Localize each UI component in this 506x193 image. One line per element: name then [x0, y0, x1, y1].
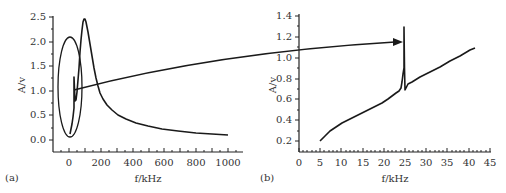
- panel-b-x-tick-label: 5: [317, 157, 323, 168]
- panel-b-x-tick-label: 10: [335, 157, 348, 168]
- panel-a-x-tick-label: 600: [154, 157, 173, 168]
- panel-b-x-tick-label: 20: [378, 157, 391, 168]
- panel-a-x-tick-label: 0: [66, 157, 72, 168]
- zoom-region-ellipse: [58, 37, 82, 137]
- panel-a-y-tick-label: 1.5: [30, 60, 46, 71]
- panel-b-x-tick-label: 45: [484, 157, 497, 168]
- panel-b: 1.4 1.2 1.0 0.8 0.6 0.4 0.2: [260, 10, 496, 184]
- panel-b-y-tick-label: 1.4: [276, 10, 292, 21]
- panel-b-x-tick-label: 40: [463, 157, 476, 168]
- panel-a-x-tick-label: 400: [123, 157, 142, 168]
- panel-a-y-axis-label: A/v: [16, 77, 27, 95]
- panel-a: 2.5 2.0 1.5 1.0 0.5 0.0: [5, 11, 243, 184]
- panel-b-x-tick-label: 0: [296, 157, 302, 168]
- panel-a-x-tick-label: 800: [186, 157, 205, 168]
- panel-b-y-tick-label: 0.6: [276, 93, 292, 104]
- panel-a-y-tick-label: 2.0: [30, 36, 46, 47]
- panel-b-y-tick-label: 1.2: [276, 31, 292, 42]
- panel-a-y-tick-label: 0.5: [30, 109, 46, 120]
- panel-b-y-tick-label: 0.8: [276, 73, 292, 84]
- panel-b-x-tick-label: 25: [399, 157, 412, 168]
- panel-b-y-tick-label: 0.4: [276, 114, 292, 125]
- panel-a-label: (a): [5, 172, 19, 183]
- panel-b-x-tick-label: 35: [441, 157, 454, 168]
- figure: 2.5 2.0 1.5 1.0 0.5 0.0: [0, 0, 506, 193]
- panel-a-y-tick-label: 1.0: [30, 85, 46, 96]
- panel-a-y-tick-label: 0.0: [30, 134, 46, 145]
- panel-a-curve: [70, 19, 228, 135]
- panel-a-x-tick-label: 1000: [215, 157, 240, 168]
- panel-a-x-axis-label: f/kHz: [134, 173, 161, 184]
- zoom-connector-arrow: [74, 38, 403, 90]
- arrowhead-icon: [393, 38, 403, 46]
- panel-b-label: (b): [260, 172, 274, 183]
- panel-b-x-axis-label: f/kHz: [381, 173, 408, 184]
- panel-b-y-axis-label: A/v: [267, 77, 278, 95]
- panel-b-x-tick-label: 15: [357, 157, 370, 168]
- panel-b-x-tick-label: 30: [420, 157, 433, 168]
- panel-b-y-tick-label: 0.2: [276, 135, 292, 146]
- panel-a-x-tick-label: 200: [91, 157, 110, 168]
- panel-a-y-tick-label: 2.5: [30, 11, 46, 22]
- panel-b-y-tick-label: 1.0: [276, 52, 292, 63]
